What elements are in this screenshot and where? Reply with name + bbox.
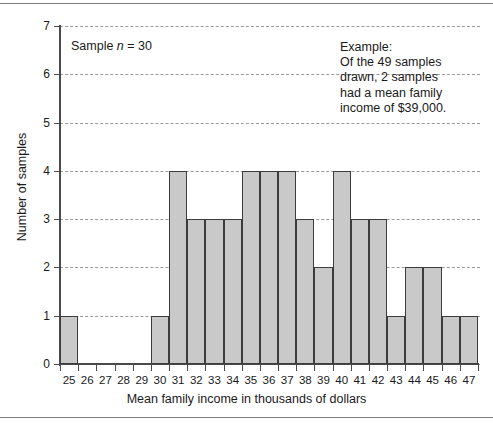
y-tick-label: 6 <box>20 68 50 80</box>
histogram-bar <box>60 316 78 364</box>
x-tick-mark <box>460 365 461 371</box>
histogram-figure: 01234567 2526272829303132333435363738394… <box>0 0 493 425</box>
x-tick-mark <box>333 365 334 371</box>
y-tick-label: 0 <box>20 358 50 370</box>
sample-note-suffix: = 30 <box>124 39 152 53</box>
histogram-bar <box>405 267 423 364</box>
x-tick-mark <box>314 365 315 371</box>
y-axis-title: Number of samples <box>15 97 29 277</box>
histogram-bar <box>333 171 351 364</box>
histogram-bar <box>242 171 260 364</box>
sample-note-variable: n <box>117 39 124 53</box>
x-tick-mark <box>205 365 206 371</box>
y-tick-mark <box>54 171 59 172</box>
histogram-bar <box>351 219 369 364</box>
histogram-bar <box>296 219 314 364</box>
y-tick-mark <box>54 26 59 27</box>
x-axis-tick-labels: 2526272829303132333435363738394041424344… <box>60 373 478 389</box>
histogram-bar <box>224 219 242 364</box>
x-tick-mark <box>187 365 188 371</box>
bottom-divider-rule <box>0 417 493 418</box>
x-tick-mark <box>296 365 297 371</box>
x-tick-mark <box>423 365 424 371</box>
x-tick-mark <box>478 365 479 371</box>
y-tick-mark <box>54 219 59 220</box>
histogram-bar <box>260 171 278 364</box>
histogram-bar <box>369 219 387 364</box>
x-tick-label: 47 <box>458 373 480 387</box>
x-tick-mark <box>169 365 170 371</box>
y-tick-mark <box>54 74 59 75</box>
histogram-bar <box>387 316 405 364</box>
x-tick-mark <box>260 365 261 371</box>
sample-size-annotation: Sample n = 30 <box>71 39 152 53</box>
histogram-bar <box>442 316 460 364</box>
x-tick-mark <box>278 365 279 371</box>
histogram-bar <box>187 219 205 364</box>
histogram-bar <box>151 316 169 364</box>
x-tick-mark <box>442 365 443 371</box>
y-tick-mark <box>54 267 59 268</box>
histogram-bar <box>314 267 332 364</box>
x-tick-mark <box>351 365 352 371</box>
y-tick-mark <box>54 364 59 365</box>
x-tick-mark <box>96 365 97 371</box>
y-tick-mark <box>54 316 59 317</box>
histogram-bar <box>423 267 441 364</box>
histogram-bar <box>278 171 296 364</box>
x-tick-mark <box>60 365 61 371</box>
x-tick-mark <box>115 365 116 371</box>
top-divider-rule <box>0 3 493 4</box>
x-tick-mark <box>369 365 370 371</box>
x-tick-mark <box>405 365 406 371</box>
sample-note-prefix: Sample <box>71 39 117 53</box>
x-tick-mark <box>151 365 152 371</box>
y-tick-label: 7 <box>20 20 50 32</box>
histogram-bar <box>205 219 223 364</box>
x-tick-mark <box>387 365 388 371</box>
x-tick-mark <box>242 365 243 371</box>
x-tick-mark <box>78 365 79 371</box>
histogram-bar <box>460 316 478 364</box>
x-tick-mark <box>224 365 225 371</box>
y-tick-mark <box>54 123 59 124</box>
y-tick-label: 1 <box>20 310 50 322</box>
example-annotation: Example: Of the 49 samples drawn, 2 samp… <box>340 40 446 116</box>
x-axis-title: Mean family income in thousands of dolla… <box>0 392 493 406</box>
x-tick-mark <box>133 365 134 371</box>
histogram-bar <box>169 171 187 364</box>
